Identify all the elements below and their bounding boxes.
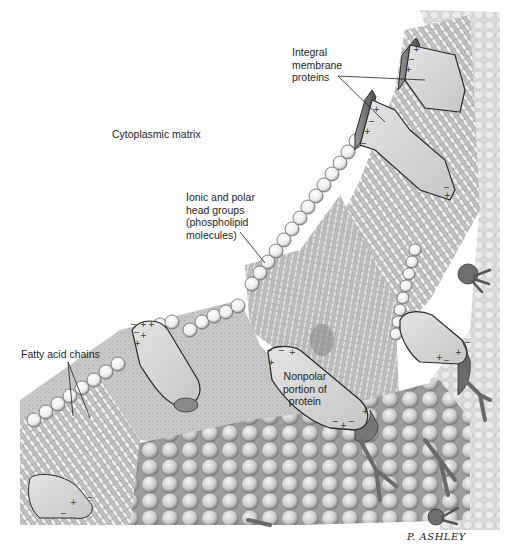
svg-text:−: − bbox=[266, 346, 273, 355]
svg-text:−: − bbox=[86, 493, 93, 502]
svg-text:+: + bbox=[289, 348, 296, 357]
svg-text:−: − bbox=[360, 139, 367, 148]
svg-text:−: − bbox=[133, 328, 140, 337]
svg-text:+: + bbox=[436, 353, 443, 362]
svg-text:−: − bbox=[348, 417, 355, 426]
pore-depression bbox=[310, 324, 334, 356]
svg-text:−: − bbox=[278, 346, 285, 355]
svg-text:+: + bbox=[268, 358, 275, 367]
svg-text:+: + bbox=[362, 407, 369, 416]
svg-text:+: + bbox=[140, 331, 147, 340]
membrane-diagram: +−+ +−+− −+ ++− ++ −−+ + −+−+ +−+− +−− −… bbox=[0, 0, 508, 550]
svg-text:+: + bbox=[70, 498, 77, 507]
svg-text:−: − bbox=[60, 509, 67, 518]
svg-text:+: + bbox=[340, 421, 347, 430]
svg-text:−: − bbox=[130, 320, 137, 329]
svg-text:+: + bbox=[373, 105, 380, 114]
label-cytoplasmic-matrix: Cytoplasmic matrix bbox=[112, 128, 201, 141]
membrane-illustration: +−+ +−+− −+ ++− ++ −−+ + −+−+ +−+− +−− − bbox=[0, 0, 508, 550]
svg-text:−: − bbox=[408, 55, 415, 64]
label-fatty-acid-chains: Fatty acid chains bbox=[21, 348, 100, 361]
svg-text:+: + bbox=[444, 191, 451, 200]
svg-text:+: + bbox=[364, 127, 371, 136]
svg-text:+: + bbox=[140, 320, 147, 329]
label-head-groups: Ionic and polar head groups (phospholipi… bbox=[186, 191, 255, 241]
svg-text:+: + bbox=[455, 348, 462, 357]
svg-text:−: − bbox=[464, 338, 471, 347]
artist-signature: P. ASHLEY bbox=[407, 531, 466, 542]
svg-text:−: − bbox=[332, 417, 339, 426]
svg-text:−: − bbox=[368, 117, 375, 126]
label-nonpolar-portion: Nonpolar portion of protein bbox=[283, 370, 327, 408]
svg-text:−: − bbox=[443, 356, 450, 365]
label-integral-membrane-proteins: Integral membrane proteins bbox=[292, 46, 342, 84]
svg-text:+: + bbox=[405, 65, 412, 74]
svg-text:+: + bbox=[134, 339, 141, 348]
svg-text:+: + bbox=[413, 45, 420, 54]
svg-text:+: + bbox=[148, 320, 155, 329]
